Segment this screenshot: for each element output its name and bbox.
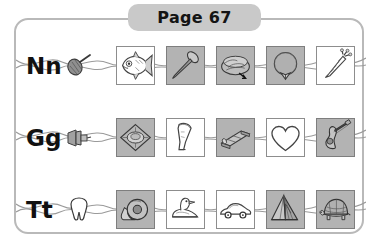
car-picture bbox=[216, 190, 255, 229]
row-letter-tt: Tt bbox=[26, 197, 53, 223]
nest-picture bbox=[216, 46, 255, 85]
gate-picture bbox=[216, 118, 255, 157]
net-icon bbox=[66, 51, 92, 81]
letter-row-nn: Nn bbox=[16, 38, 366, 94]
carrot-picture bbox=[316, 46, 355, 85]
tooth-icon bbox=[66, 195, 92, 225]
gem-picture bbox=[116, 118, 155, 157]
page-title: Page 67 bbox=[157, 8, 231, 27]
fish-picture bbox=[116, 46, 155, 85]
letter-row-tt: Tt bbox=[16, 182, 366, 238]
worksheet-page: Page 67 Nn bbox=[0, 0, 384, 250]
nail-picture bbox=[166, 46, 205, 85]
tent-picture bbox=[266, 190, 305, 229]
funnel-picture bbox=[166, 118, 205, 157]
guitar-icon bbox=[66, 123, 92, 153]
page-header-tab: Page 67 bbox=[128, 4, 261, 31]
tape-picture bbox=[116, 190, 155, 229]
letter-row-gg: Gg bbox=[16, 110, 366, 166]
guitar-picture bbox=[316, 118, 355, 157]
row-letter-nn: Nn bbox=[26, 53, 62, 79]
turtle-picture bbox=[316, 190, 355, 229]
heart-picture bbox=[266, 118, 305, 157]
row-letter-gg: Gg bbox=[26, 125, 61, 151]
necklace-picture bbox=[266, 46, 305, 85]
duck-picture bbox=[166, 190, 205, 229]
